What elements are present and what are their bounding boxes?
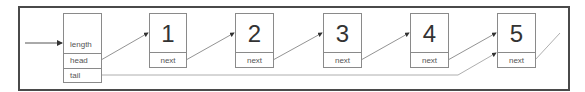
node-value: 4 — [411, 14, 448, 52]
next-pointer: next — [150, 52, 186, 68]
next-pointer: next — [236, 52, 273, 68]
next-pointer: next — [411, 52, 448, 68]
tail-field: tail — [64, 68, 101, 83]
list-node-1: 1 next — [149, 13, 187, 68]
list-node-5: 5 next — [497, 13, 536, 68]
node-value: 3 — [324, 14, 361, 52]
list-header: length head tail — [63, 13, 102, 83]
head-field: head — [64, 53, 101, 68]
list-node-4: 4 next — [410, 13, 449, 68]
list-node-3: 3 next — [323, 13, 362, 68]
next-pointer: next — [498, 52, 535, 68]
length-field: length — [64, 38, 101, 53]
node-value: 2 — [236, 14, 273, 52]
list-node-2: 2 next — [235, 13, 274, 68]
node-value: 5 — [498, 14, 535, 52]
node-value: 1 — [150, 14, 186, 52]
next-pointer: next — [324, 52, 361, 68]
